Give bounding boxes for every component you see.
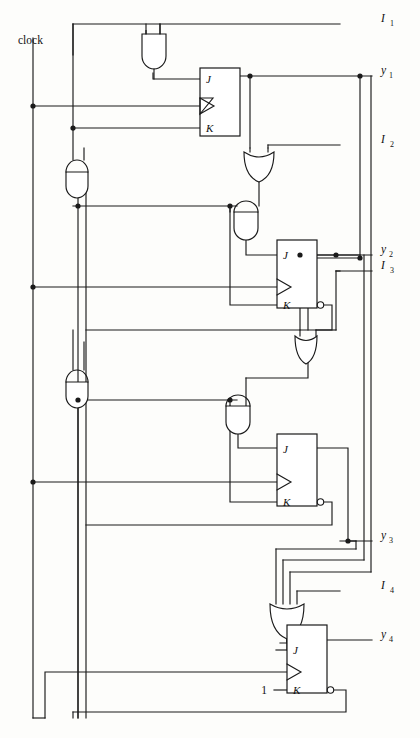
dot-y2-bus-2: [333, 252, 338, 257]
label-y2-sub: 2: [389, 250, 393, 259]
dot-y2-bus: [297, 252, 302, 257]
wire-and1-out-to-ff1-j: [153, 73, 200, 79]
label-I3-sub: 3: [390, 266, 394, 275]
label-I2-sub: 2: [390, 140, 394, 149]
dot-clock-1: [30, 103, 35, 108]
dot-y1-tap: [247, 73, 252, 78]
wire-ff2-qbar-loop: [86, 305, 332, 330]
wire-and3-out-to-ff3-j: [238, 434, 277, 448]
ff2-k-label: K: [282, 299, 291, 311]
label-I1-sub: 1: [390, 19, 394, 28]
wire-clock-to-ff4: [45, 672, 287, 718]
circuit-diagram: clock I 1 y 1 I 2 y 2 I 3 y 3 I 4 y 4 1 …: [0, 0, 420, 738]
dot-and2-out: [75, 203, 80, 208]
dot-y1-right: [357, 73, 362, 78]
ff3-k-label: K: [282, 496, 291, 508]
label-I4-sub: 4: [390, 586, 394, 595]
and-gate-2: [66, 160, 88, 198]
label-I3: I: [380, 259, 386, 271]
or-gate-1: [244, 152, 274, 182]
wire-ff3-out: [317, 448, 348, 541]
label-y1-sub: 1: [389, 71, 393, 80]
ff1-k-label: K: [205, 122, 214, 134]
wire-and2-out-to-ff2-j: [246, 240, 277, 255]
dot-y1-bus-258: [357, 255, 362, 260]
label-I1: I: [380, 12, 386, 24]
label-y3: y: [380, 529, 387, 542]
dot-left-bus-k1: [70, 125, 75, 130]
wire-or2-out: [246, 362, 308, 378]
dot-clock-2: [30, 284, 35, 289]
ff4-k-label: K: [292, 684, 301, 696]
or-gate-2: [295, 336, 317, 364]
label-y4: y: [380, 628, 387, 641]
label-y4-sub: 4: [389, 635, 393, 644]
label-constant-one: 1: [261, 684, 267, 696]
flipflop-4: [287, 625, 334, 693]
and-gate-4: [234, 201, 258, 240]
dot-and3-rail: [227, 397, 232, 402]
dot-y3-bus: [345, 538, 350, 543]
clock-label: clock: [18, 34, 43, 46]
dot-clock-3: [30, 479, 35, 484]
label-I2: I: [380, 133, 386, 145]
label-I4: I: [380, 579, 386, 591]
label-y1: y: [380, 64, 387, 77]
circuit-schematic-svg: clock I 1 y 1 I 2 y 2 I 3 y 3 I 4 y 4 1 …: [0, 0, 420, 738]
dot-and2-rail: [227, 203, 232, 208]
dot-and3-out: [75, 397, 80, 402]
and-gate-1: [142, 24, 166, 79]
label-y2: y: [380, 243, 387, 256]
label-y3-sub: 3: [389, 536, 393, 545]
